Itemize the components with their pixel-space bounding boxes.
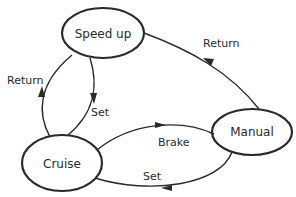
arrow-right-icon xyxy=(155,122,166,128)
transition-speedup-to-cruise xyxy=(68,58,94,135)
transition-manual-to-cruise xyxy=(95,152,232,186)
transition-label-brake: Brake xyxy=(158,137,190,148)
arrow-up-icon xyxy=(38,86,45,97)
transition-cruise-to-manual xyxy=(97,125,214,150)
state-label-cruise: Cruise xyxy=(43,158,81,170)
state-label-manual: Manual xyxy=(230,126,274,138)
transition-cruise-to-speedup xyxy=(42,55,72,137)
transition-label-set-bottom: Set xyxy=(143,171,161,182)
transition-manual-to-speedup xyxy=(144,33,259,109)
transition-label-set-left: Set xyxy=(91,107,109,118)
transition-label-return-right: Return xyxy=(203,38,240,49)
state-diagram: Speed up Cruise Manual Return Set Return… xyxy=(0,0,296,197)
state-label-speed-up: Speed up xyxy=(75,28,132,40)
transition-label-return-left: Return xyxy=(7,75,44,86)
